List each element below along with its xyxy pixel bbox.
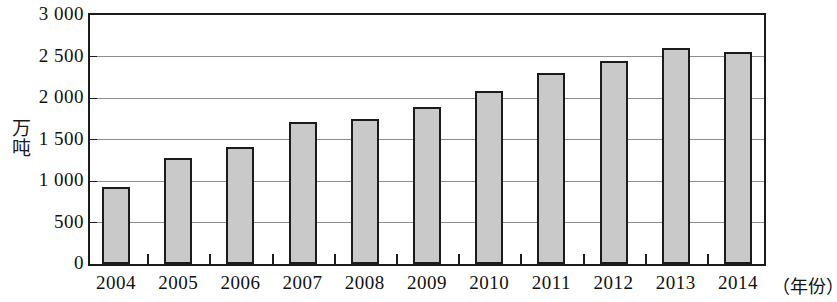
x-axis-tick bbox=[458, 254, 460, 264]
x-axis-tick bbox=[272, 254, 274, 264]
bar-2012 bbox=[600, 61, 628, 264]
y-axis-tick-labels: 05001 0001 5002 0002 5003 000 bbox=[18, 0, 84, 302]
y-axis-tick bbox=[90, 139, 97, 140]
plot-area bbox=[88, 13, 766, 266]
x-axis-tick-label: 2007 bbox=[273, 272, 333, 294]
bar-2011 bbox=[537, 73, 565, 264]
x-axis-tick-label: 2013 bbox=[646, 272, 706, 294]
x-axis-tick bbox=[645, 254, 647, 264]
x-axis-tick-label: 2011 bbox=[521, 272, 581, 294]
x-axis-tick-label: 2014 bbox=[708, 272, 768, 294]
bar-2008 bbox=[351, 119, 379, 264]
y-axis-tick bbox=[90, 181, 97, 182]
y-axis-tick bbox=[90, 56, 97, 57]
bar-2007 bbox=[289, 122, 317, 264]
x-axis-unit-label: （年份） bbox=[772, 272, 837, 298]
x-axis-tick bbox=[209, 254, 211, 264]
bar-2013 bbox=[662, 48, 690, 264]
bar-2010 bbox=[475, 91, 503, 264]
x-axis-tick-label: 2012 bbox=[584, 272, 644, 294]
x-axis-tick bbox=[707, 254, 709, 264]
y-axis-tick-label: 3 000 bbox=[22, 3, 84, 25]
x-axis-tick-label: 2008 bbox=[335, 272, 395, 294]
x-axis-tick-label: 2006 bbox=[210, 272, 270, 294]
y-axis-tick-label: 1 000 bbox=[22, 169, 84, 191]
y-axis-tick-label: 2 500 bbox=[22, 45, 84, 67]
y-axis-tick-label: 500 bbox=[22, 211, 84, 233]
bar-2014 bbox=[724, 52, 752, 264]
x-axis-tick-label: 2005 bbox=[148, 272, 208, 294]
y-axis-tick-label: 1 500 bbox=[22, 128, 84, 150]
bar-2004 bbox=[102, 187, 130, 264]
y-axis-tick bbox=[90, 222, 97, 223]
x-axis-tick bbox=[520, 254, 522, 264]
x-axis-tick bbox=[147, 254, 149, 264]
x-axis-tick bbox=[396, 254, 398, 264]
x-axis-tick-label: 2010 bbox=[459, 272, 519, 294]
x-axis-tick bbox=[583, 254, 585, 264]
plot-inner bbox=[90, 15, 764, 264]
bar-2009 bbox=[413, 107, 441, 264]
y-axis-tick bbox=[90, 98, 97, 99]
bar-2006 bbox=[226, 147, 254, 264]
x-axis-tick-label: 2004 bbox=[86, 272, 146, 294]
x-axis-tick bbox=[334, 254, 336, 264]
y-axis-tick-label: 0 bbox=[22, 252, 84, 274]
x-axis-tick-label: 2009 bbox=[397, 272, 457, 294]
bar-2005 bbox=[164, 158, 192, 264]
y-axis-tick-label: 2 000 bbox=[22, 86, 84, 108]
